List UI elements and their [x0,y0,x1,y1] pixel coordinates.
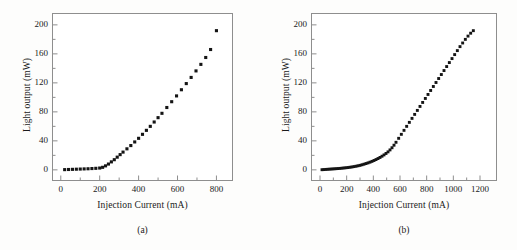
plot-area-a [52,13,233,181]
data-series-b [321,29,475,171]
x-tick-label-a: 0 [41,184,81,194]
y-tick-label-b: 160 [277,48,307,58]
x-tick-label-a: 600 [158,184,198,194]
data-series-a [63,29,218,171]
scatter-plot-b [312,14,496,180]
y-tick-label-a: 40 [18,135,48,145]
y-tick-label-b: 80 [277,106,307,116]
scatter-plot-a [53,14,232,180]
plot-area-b [311,13,497,181]
chart-panel-a: Light output (mW) Injection Current (mA)… [0,0,258,250]
x-axis-title-a: Injection Current (mA) [52,200,233,210]
y-tick-label-b: 200 [277,19,307,29]
panel-caption-b: (b) [311,225,497,235]
y-tick-label-a: 160 [18,48,48,58]
y-tick-label-b: 40 [277,135,307,145]
y-tick-label-a: 200 [18,19,48,29]
figure-root: Light output (mW) Injection Current (mA)… [0,0,517,250]
x-tick-label-b: 1200 [460,184,500,194]
panel-caption-a: (a) [52,225,233,235]
y-tick-label-b: 0 [277,164,307,174]
y-tick-label-a: 0 [18,164,48,174]
x-axis-title-b: Injection Current (mA) [311,200,497,210]
y-tick-label-a: 80 [18,106,48,116]
y-tick-label-a: 120 [18,77,48,87]
y-tick-label-b: 120 [277,77,307,87]
x-tick-label-a: 400 [119,184,159,194]
chart-panel-b: Light output (mW) Injection Current (mA)… [259,0,517,250]
x-tick-label-a: 200 [80,184,120,194]
x-tick-label-a: 800 [196,184,236,194]
